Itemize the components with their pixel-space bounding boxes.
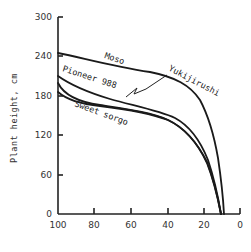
y-tick-300: 300	[35, 12, 52, 22]
x-tick-labels: 100 80 60 40 20 0	[49, 220, 243, 230]
x-tick-80: 80	[88, 220, 100, 230]
x-tick-60: 60	[125, 220, 137, 230]
x-tick-100: 100	[49, 220, 66, 230]
x-ticks	[94, 208, 240, 214]
plant-height-chart: 300 240 180 120 60 0 100 80 60 40 20 0 P…	[0, 0, 251, 252]
y-tick-180: 180	[35, 91, 52, 101]
x-tick-0: 0	[237, 220, 243, 230]
y-tick-60: 60	[41, 170, 53, 180]
y-tick-120: 120	[35, 130, 52, 140]
x-tick-40: 40	[162, 220, 174, 230]
axes	[58, 17, 240, 214]
y-tick-labels: 300 240 180 120 60 0	[35, 12, 52, 219]
y-tick-240: 240	[35, 51, 52, 61]
yukijirushi-leader-line	[126, 75, 167, 97]
x-tick-20: 20	[198, 220, 210, 230]
y-tick-0: 0	[46, 209, 52, 219]
label-pioneer-988: Pioneer 988	[61, 63, 118, 90]
y-axis-label: Plant height, cm	[9, 73, 19, 163]
